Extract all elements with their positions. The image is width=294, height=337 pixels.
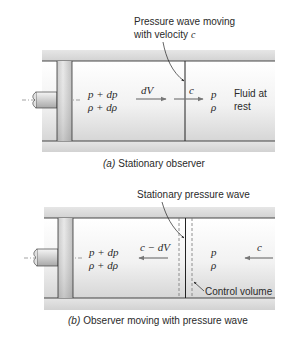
wave-annotation-var: c bbox=[191, 29, 196, 40]
piston bbox=[57, 61, 72, 141]
pipe-bottom-wall bbox=[42, 141, 275, 152]
piston-b bbox=[58, 218, 73, 298]
fluid-at-rest-line2: rest bbox=[234, 101, 251, 112]
pipe-top-wall-b bbox=[44, 207, 275, 218]
wave-annotation-text: with velocity bbox=[133, 29, 188, 40]
control-volume-label: Control volume bbox=[205, 286, 273, 297]
fluid-at-rest-line1: Fluid at bbox=[234, 88, 267, 99]
caption-a-text: Stationary observer bbox=[118, 158, 205, 169]
caption-b-letter: (b) bbox=[68, 315, 80, 326]
piston-rod bbox=[33, 92, 57, 108]
dv-label: dV bbox=[141, 84, 155, 96]
caption-b-text: Observer moving with pressure wave bbox=[83, 315, 248, 326]
left-density-label-b: ρ + dρ bbox=[88, 259, 118, 271]
piston-rod-b bbox=[34, 249, 58, 266]
panel-a: Pressure wave moving with velocityc bbox=[22, 16, 275, 169]
left-pressure-label: p + dp bbox=[87, 88, 118, 100]
figure: Pressure wave moving with velocityc bbox=[0, 0, 294, 337]
right-pressure-label-b: p bbox=[210, 246, 217, 258]
stationary-wave-annotation: Stationary pressure wave bbox=[137, 189, 250, 200]
right-density-label-b: ρ bbox=[210, 259, 216, 271]
c-label-b: c bbox=[257, 241, 262, 253]
right-density-label: ρ bbox=[210, 101, 216, 113]
right-pressure-label: p bbox=[210, 88, 217, 100]
left-density-label: ρ + dρ bbox=[87, 101, 117, 113]
pipe-top-wall bbox=[42, 50, 275, 61]
wave-annotation-line2: with velocityc bbox=[133, 29, 196, 40]
panel-b: Stationary pressure wave p + bbox=[24, 189, 275, 326]
caption-a: (a)Stationary observer bbox=[103, 158, 206, 169]
c-label: c bbox=[189, 84, 194, 96]
left-pressure-label-b: p + dp bbox=[88, 246, 119, 258]
pipe-bottom-wall-b bbox=[44, 298, 275, 310]
c-minus-dv-label: c − dV bbox=[140, 241, 171, 253]
wave-annotation-line1: Pressure wave moving bbox=[134, 16, 235, 27]
caption-a-letter: (a) bbox=[103, 158, 115, 169]
caption-b: (b)Observer moving with pressure wave bbox=[68, 315, 248, 326]
